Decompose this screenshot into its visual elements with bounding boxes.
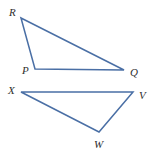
- geometry-figure: R P Q X V W: [0, 0, 159, 156]
- vertex-label-v: V: [139, 90, 146, 101]
- triangle-pqr-outline: [21, 18, 124, 70]
- triangle-xvw-outline: [21, 92, 133, 132]
- vertex-label-q: Q: [130, 67, 138, 78]
- vertex-label-x: X: [8, 85, 15, 96]
- vertex-label-p: P: [22, 65, 29, 76]
- vertex-label-w: W: [94, 139, 103, 150]
- vertex-label-r: R: [9, 7, 16, 18]
- figure-canvas: [0, 0, 159, 156]
